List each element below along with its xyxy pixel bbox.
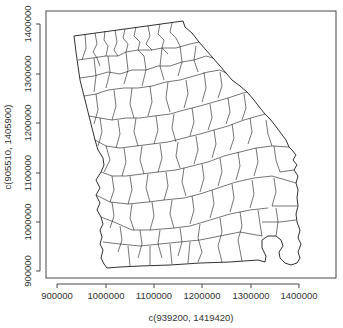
y-tick-label: 1000000 (22, 204, 33, 241)
y-tick-label: 1100000 (22, 155, 33, 191)
plot-frame (46, 11, 336, 278)
x-axis-title: c(939200, 1419420) (148, 312, 233, 323)
y-axis: 9000001000000110000012000001300000140000… (2, 6, 40, 287)
x-tick-label: 1300000 (233, 290, 270, 301)
y-tick-label: 900000 (22, 255, 33, 287)
x-axis: 9000001000000110000012000001300000140000… (41, 284, 317, 323)
x-tick-label: 1100000 (136, 290, 172, 301)
y-tick-label: 1200000 (22, 105, 33, 142)
x-tick-label: 1000000 (88, 290, 125, 301)
county-boundaries (78, 23, 297, 266)
x-tick-label: 1200000 (184, 290, 221, 301)
map-plot: 9000001000000110000012000001300000140000… (0, 0, 343, 328)
y-tick-label: 1300000 (22, 56, 33, 93)
y-tick-label: 1400000 (22, 6, 33, 43)
x-tick-label: 900000 (41, 290, 73, 301)
x-tick-label: 1400000 (281, 290, 318, 301)
georgia-map (74, 21, 301, 268)
y-axis-title: c(905510, 1405900) (2, 104, 13, 189)
